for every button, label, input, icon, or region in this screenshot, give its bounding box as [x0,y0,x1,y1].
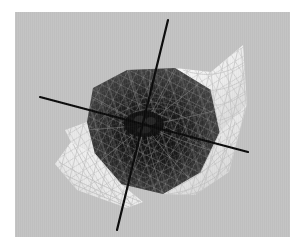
surface-mesh [15,12,290,237]
figure-container [0,0,305,249]
plot-panel [15,12,290,237]
